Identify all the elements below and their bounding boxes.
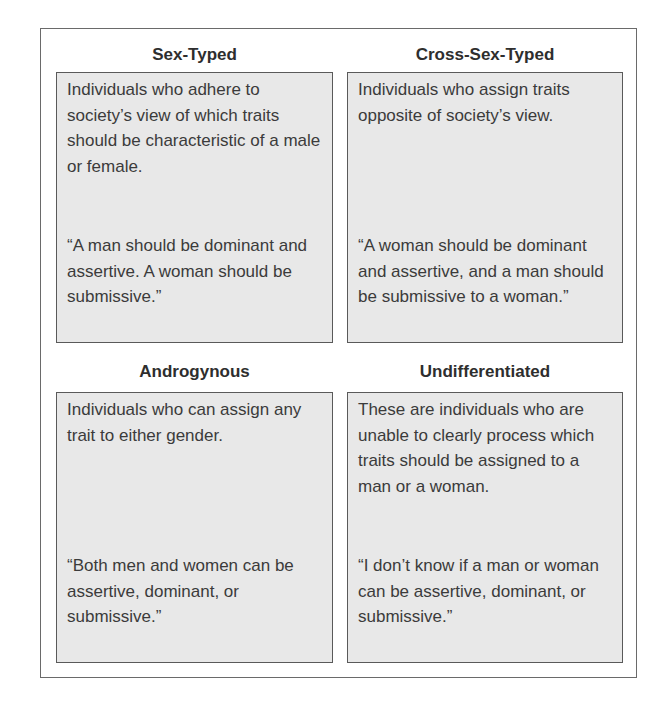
quadrant-description: Individuals who adhere to society’s view… — [67, 77, 323, 179]
quadrant-title: Androgynous — [56, 362, 333, 382]
quadrant-box: These are individuals who are unable to … — [347, 392, 623, 663]
quadrant-quote: “A woman should be dominant and assertiv… — [358, 233, 614, 310]
quadrant-title: Undifferentiated — [347, 362, 623, 382]
quadrant-description: These are individuals who are unable to … — [358, 397, 613, 499]
quadrant-cross-sex-typed: Cross-Sex-Typed Individuals who assign t… — [347, 44, 623, 344]
quadrant-quote: “Both men and women can be assertive, do… — [67, 553, 324, 630]
quadrant-box: Individuals who can assign any trait to … — [56, 392, 333, 663]
quadrant-description: Individuals who can assign any trait to … — [67, 397, 323, 448]
quadrant-title: Cross-Sex-Typed — [347, 45, 623, 65]
quadrant-androgynous: Androgynous Individuals who can assign a… — [56, 362, 333, 663]
quadrant-sex-typed: Sex-Typed Individuals who adhere to soci… — [56, 44, 333, 344]
quadrant-box: Individuals who adhere to society’s view… — [56, 72, 333, 343]
quadrant-quote: “I don’t know if a man or woman can be a… — [358, 553, 614, 630]
quadrant-title: Sex-Typed — [56, 45, 333, 65]
quadrant-quote: “A man should be dominant and assertive.… — [67, 233, 324, 310]
quadrant-box: Individuals who assign traits opposite o… — [347, 72, 623, 343]
quadrant-description: Individuals who assign traits opposite o… — [358, 77, 613, 128]
quadrant-undifferentiated: Undifferentiated These are individuals w… — [347, 362, 623, 663]
